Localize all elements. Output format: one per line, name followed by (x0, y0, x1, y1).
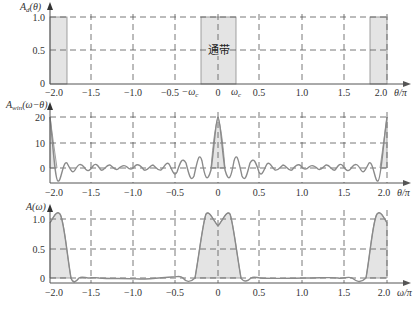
p3-xtick: −0.5 (166, 287, 184, 298)
p1-xlabel: θ/π (394, 87, 408, 98)
p3-xtick: 0.5 (253, 287, 266, 298)
p1-xtick: −1.5 (82, 87, 100, 98)
p2-xtick: 2.0 (378, 187, 391, 198)
p1-xtick: 0.5 (253, 87, 266, 98)
p2-xtick: −2.0 (45, 187, 63, 198)
p2-ylabel: Awin(ω−θ) (5, 99, 48, 112)
neg-wc-label: −ωc (182, 86, 200, 99)
p2-xtick: 0 (216, 187, 221, 198)
band-left (50, 17, 67, 84)
p1-xtick: 1.5 (338, 87, 351, 98)
p3-xtick: −1.0 (124, 287, 142, 298)
p2-xtick: 0.5 (253, 187, 266, 198)
p2-xtick: −1.5 (82, 187, 100, 198)
p2-ytick: 10 (35, 138, 45, 149)
p1-xtick: 0 (216, 87, 221, 98)
p1-xtick: −1.0 (124, 87, 142, 98)
p3-xtick: 1.0 (296, 287, 309, 298)
panel-window-response: Awin(ω−θ) 20 10 0 −2.0 −1.5 −1.0 −0.5 0 … (5, 99, 411, 198)
p3-ytick: 1.0 (33, 214, 46, 225)
p3-ylabel: A(ω) (25, 201, 46, 213)
passband-label: 通带 (208, 44, 230, 56)
p3-ytick: 0 (40, 273, 45, 284)
p1-xtick: 2.0 (375, 87, 388, 98)
p2-ytick: 0 (40, 163, 45, 174)
p3-xtick: 2.0 (378, 287, 391, 298)
p2-xtick: −1.0 (124, 187, 142, 198)
p1-xtick: 1.0 (296, 87, 309, 98)
p2-xtick: 1.5 (338, 187, 351, 198)
p3-xtick: −1.5 (82, 287, 100, 298)
p2-xtick: 1.0 (296, 187, 309, 198)
p1-xtick: −2.0 (45, 87, 63, 98)
panel-ideal-response: Ad(θ) 1.0 0.5 0 −2.0 −1.5 −1.0 −0.5 0 0.… (19, 1, 411, 99)
p2-xtick: −0.5 (166, 187, 184, 198)
p3-xtick: 1.5 (338, 287, 351, 298)
p1-ytick: 0.5 (33, 45, 46, 56)
band-right (370, 17, 387, 84)
p3-xtick: −2.0 (45, 287, 63, 298)
p3-xtick: 0 (216, 287, 221, 298)
pos-wc-label: ωc (231, 86, 242, 99)
figure: Ad(θ) 1.0 0.5 0 −2.0 −1.5 −1.0 −0.5 0 0.… (0, 0, 419, 310)
p2-xlabel: θ/π (397, 187, 411, 198)
p3-ytick: 0.5 (33, 244, 46, 255)
p3-xlabel: ω/π (397, 287, 413, 298)
panel-filter-response: A(ω) 1.0 0.5 0 −2.0 −1.5 −1.0 −0.5 0 0.5… (25, 201, 413, 298)
p1-ytick: 1.0 (33, 12, 46, 23)
p1-xtick: −0.5 (161, 87, 179, 98)
p2-ytick: 20 (35, 112, 45, 123)
